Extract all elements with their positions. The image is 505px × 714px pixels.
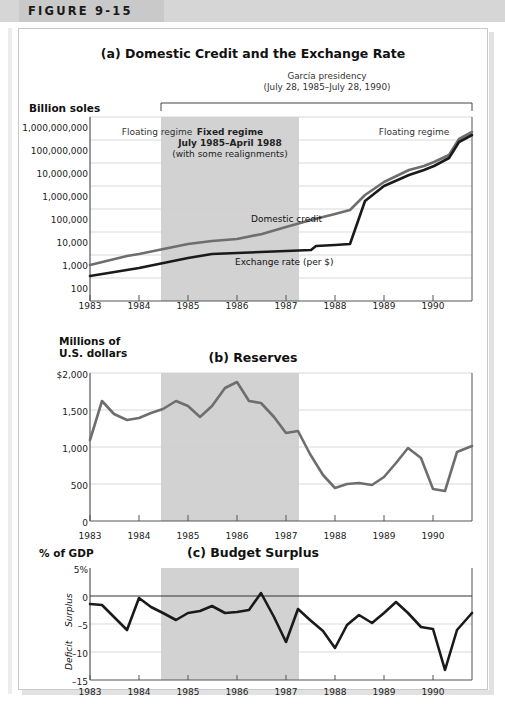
regime-label-mid-line3: (with some realignments): [172, 149, 288, 159]
figure-page: FIGURE 9-15 (a) Domestic Credit and the …: [0, 0, 505, 714]
regime-label-mid-line2: July 1985–April 1988: [177, 138, 282, 148]
card-shadow-right: [489, 32, 494, 694]
panel-a-plot: Floating regime Floating regime Fixed re…: [19, 29, 487, 327]
panel-a: (a) Domestic Credit and the Exchange Rat…: [19, 29, 487, 327]
regime-label-mid-line1: Fixed regime: [197, 127, 263, 137]
annotation-exchange-rate: Exchange rate (per $): [235, 257, 334, 267]
panel-b-plot: [19, 327, 487, 535]
annotation-domestic-credit: Domestic credit: [251, 214, 322, 224]
panel-c: % of GDP (c) Budget Surplus Surplus Defi…: [19, 535, 487, 691]
figure-label: FIGURE 9-15: [28, 4, 133, 18]
panel-b: Millions of U.S. dollars (b) Reserves $2…: [19, 327, 487, 535]
page-left-edge: [8, 28, 12, 694]
figure-card: (a) Domestic Credit and the Exchange Rat…: [18, 28, 488, 690]
regime-label-right: Floating regime: [379, 127, 450, 137]
garcia-presidency-bracket: [161, 103, 472, 111]
regime-label-left: Floating regime: [122, 127, 193, 137]
panel-c-plot: [19, 535, 487, 691]
